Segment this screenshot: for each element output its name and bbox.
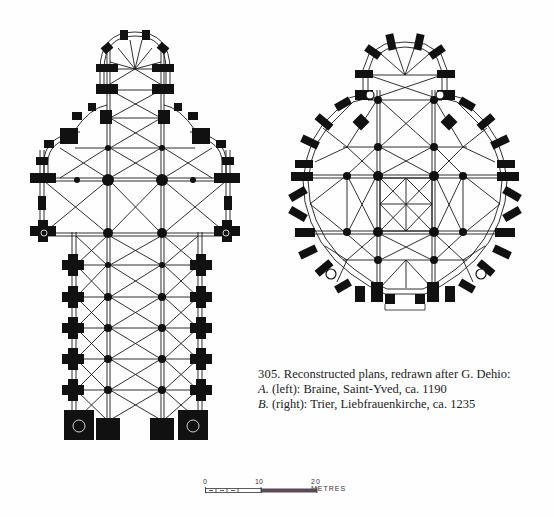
plan-a-braine-saint-yved [0, 0, 260, 445]
caption-item-a: A. (left): Braine, Saint-Yved, ca. 1190 [258, 382, 538, 397]
scale-label-10: 10 [255, 478, 263, 485]
caption-item-b-text: (right): Trier, Liebfrauenkirche, ca. 12… [269, 397, 475, 411]
caption-item-a-text: (left): Braine, Saint-Yved, ca. 1190 [269, 382, 447, 396]
figure-caption: 305. Reconstructed plans, redrawn after … [258, 367, 538, 412]
scale-bar-graphic [205, 487, 325, 495]
caption-item-a-letter: A. [258, 382, 269, 396]
caption-title-text: Reconstructed plans, redrawn after G. De… [284, 367, 511, 381]
figure-number: 305. [258, 367, 281, 381]
scale-label-0: 0 [203, 478, 207, 485]
caption-item-b: B. (right): Trier, Liebfrauenkirche, ca.… [258, 397, 538, 412]
caption-title: 305. Reconstructed plans, redrawn after … [258, 367, 538, 382]
plan-b-trier-liebfrauenkirche [275, 20, 535, 320]
caption-item-b-letter: B. [258, 397, 269, 411]
